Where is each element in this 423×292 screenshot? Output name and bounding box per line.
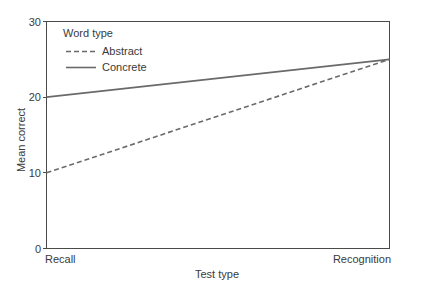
x-axis-category-labels: Recall Recognition [45, 253, 391, 265]
x-axis-title: Test type [195, 268, 239, 280]
legend-label-concrete: Concrete [102, 61, 147, 73]
y-tick-label-10: 10 [29, 167, 41, 179]
y-tick-label-30: 30 [29, 16, 41, 28]
plot-border [47, 22, 390, 249]
x-category-label-recognition: Recognition [333, 253, 391, 265]
line-chart-svg: 30 20 10 0 Mean correct Recall Recogniti… [0, 0, 423, 292]
data-series-group [47, 59, 390, 173]
series-line-concrete [47, 59, 390, 97]
series-line-abstract [47, 59, 390, 173]
legend-title: Word type [63, 27, 113, 39]
plot-frame [47, 22, 390, 249]
y-axis-title: Mean correct [15, 108, 27, 172]
y-axis-tick-labels: 30 20 10 0 [29, 16, 41, 255]
legend: Word type Abstract Concrete [63, 27, 147, 73]
y-tick-label-20: 20 [29, 91, 41, 103]
y-tick-label-0: 0 [35, 243, 41, 255]
chart-figure: 30 20 10 0 Mean correct Recall Recogniti… [0, 0, 423, 292]
legend-label-abstract: Abstract [102, 45, 142, 57]
x-category-label-recall: Recall [45, 253, 76, 265]
